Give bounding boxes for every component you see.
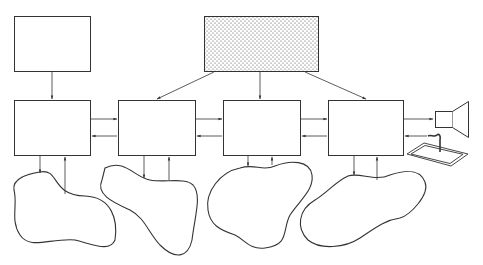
blob-arrows	[40, 156, 377, 194]
tablet-icon	[407, 134, 468, 166]
loudspeaker-icon	[436, 102, 469, 138]
process-box-4	[329, 101, 404, 156]
process-box-2	[119, 101, 196, 156]
blob-3	[208, 162, 313, 248]
source-stippled-box	[205, 17, 319, 72]
blob-2	[101, 165, 198, 255]
process-box-3	[224, 101, 301, 156]
blob-4	[300, 171, 425, 246]
source-arrows	[52, 71, 366, 99]
source-plain-box	[15, 17, 91, 72]
block-diagram	[0, 0, 483, 265]
process-box-1	[15, 101, 91, 156]
